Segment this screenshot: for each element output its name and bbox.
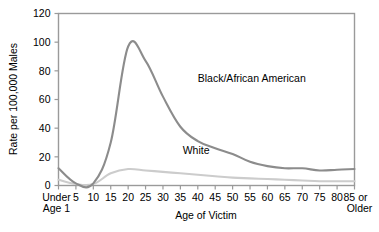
y-axis-tick-label: 100 <box>33 36 51 48</box>
y-axis-tick-label: 120 <box>33 7 51 19</box>
line-chart: 020406080100120 UnderAge 151015202530354… <box>0 0 379 232</box>
x-axis-tick-label: 70 <box>296 191 308 203</box>
y-axis-tick-label: 60 <box>39 93 51 105</box>
x-axis-tick-label: 80 <box>331 191 343 203</box>
x-axis-title: Age of Victim <box>175 209 237 221</box>
x-axis-tick-label: 5 <box>73 191 79 203</box>
y-axis-tick-label: 40 <box>39 122 51 134</box>
x-axis-tick-label: 40 <box>192 191 204 203</box>
x-axis-tick-label: 55 <box>244 191 256 203</box>
x-axis-tick-label: 10 <box>87 191 99 203</box>
x-axis-tick-label: 50 <box>227 191 239 203</box>
chart-container: 020406080100120 UnderAge 151015202530354… <box>0 0 379 232</box>
x-axis-tick-label: 35 <box>175 191 187 203</box>
y-axis-tick-label: 80 <box>39 65 51 77</box>
x-axis-tick-label: 45 <box>209 191 221 203</box>
series-annotation-black-african-american: Black/African American <box>198 72 306 84</box>
x-axis-tick-label: 60 <box>262 191 274 203</box>
y-axis-title: Rate per 100,000 Males <box>7 43 19 155</box>
series-annotation-white: White <box>183 144 210 156</box>
x-axis-tick-label: 15 <box>105 191 117 203</box>
y-axis-tick-label: 0 <box>45 179 51 191</box>
x-axis-tick-label: 75 <box>314 191 326 203</box>
x-axis-tick-label: Older <box>347 202 373 214</box>
x-axis-tick-label: Age 1 <box>43 202 71 214</box>
x-axis-tick-label: 65 <box>279 191 291 203</box>
x-axis-tick-label: 20 <box>122 191 134 203</box>
x-axis-tick-label: 30 <box>157 191 169 203</box>
x-axis-tick-label: 25 <box>140 191 152 203</box>
y-axis-tick-label: 20 <box>39 151 51 163</box>
